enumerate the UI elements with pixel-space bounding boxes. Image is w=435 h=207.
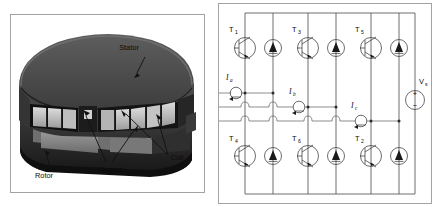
phase-a-node-leg-a [244, 92, 247, 95]
label-magnet: Magnet [98, 165, 123, 174]
coil-segment [48, 108, 61, 128]
motor-diagram: Stator Rotor Magnet Coil [0, 0, 215, 207]
phase-a-node-diode-a [272, 92, 275, 95]
coil-segment [63, 109, 76, 129]
label-Ia-main: I [225, 73, 229, 82]
label-Ib-sub: b [293, 91, 296, 97]
label-T6-sub: 6 [298, 138, 301, 144]
label-Ia-sub: a [230, 77, 233, 83]
label-T5-main: T [355, 25, 360, 34]
label-T1-sub: 1 [235, 29, 238, 35]
label-T5-sub: 5 [361, 29, 364, 35]
coil-group-left [33, 107, 76, 129]
current-source-Ia [229, 87, 242, 101]
coil-segment [162, 102, 175, 126]
label-Vs-sub: s [425, 81, 428, 87]
circuit-panel-border [219, 4, 432, 204]
magnet-block-2 [110, 136, 152, 154]
phase-c-node-leg-c [370, 120, 373, 123]
label-T2-main: T [355, 134, 360, 143]
label-T2-sub: 2 [361, 138, 364, 144]
label-T6-main: T [292, 134, 297, 143]
circuit-diagram: T 1 T 3 T 5 [215, 0, 435, 207]
inverter-circuit-panel: T 1 T 3 T 5 [215, 0, 435, 207]
motor-cutaway-panel: Stator Rotor Magnet Coil [0, 0, 215, 207]
figure-root: Stator Rotor Magnet Coil [0, 0, 435, 207]
label-T4-main: T [229, 134, 234, 143]
phase-b-node-diode-b [335, 106, 338, 109]
label-Ib-main: I [288, 87, 292, 96]
label-T1-main: T [229, 25, 234, 34]
label-Vs-main: V [419, 77, 424, 86]
stator-top [19, 34, 194, 110]
label-stator: Stator [119, 43, 139, 52]
label-T4-sub: 4 [235, 138, 238, 144]
label-Ic-sub: c [355, 105, 358, 111]
phase-b-node-leg-b [307, 106, 310, 109]
phase-c-node-diode-c [398, 120, 401, 123]
current-source-Ic [354, 115, 367, 129]
label-rotor: Rotor [35, 171, 54, 180]
voltage-source-minus: − [413, 101, 417, 110]
voltage-source-plus: + [413, 89, 417, 98]
coil-segment [33, 107, 46, 127]
label-T3-main: T [292, 25, 297, 34]
coil-segment [101, 110, 114, 130]
label-T3-sub: 3 [298, 29, 301, 35]
current-source-Ib [292, 101, 305, 115]
label-coil: Coil [171, 153, 184, 162]
label-Ic-main: I [350, 101, 354, 110]
